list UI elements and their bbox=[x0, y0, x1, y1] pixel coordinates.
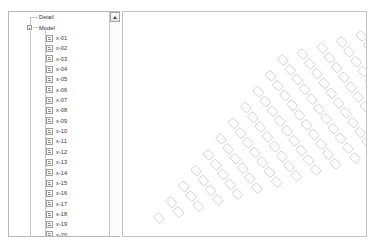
grid-tile bbox=[249, 147, 260, 158]
document-icon bbox=[46, 190, 53, 197]
tree-item-model[interactable]: Model bbox=[9, 22, 109, 32]
grid-tile bbox=[349, 152, 360, 163]
grid-tile bbox=[353, 91, 364, 102]
grid-tile bbox=[335, 133, 346, 144]
grid-tile bbox=[225, 179, 236, 190]
tree-item-x-18[interactable]: x-18 bbox=[9, 209, 109, 219]
grid-tile bbox=[285, 64, 296, 75]
tree-connector-line bbox=[30, 235, 31, 236]
document-icon bbox=[46, 107, 53, 114]
tree-item-x-05[interactable]: x-05 bbox=[9, 74, 109, 84]
grid-tile bbox=[345, 82, 356, 93]
grid-tile bbox=[205, 185, 216, 196]
tree-connector-line bbox=[30, 90, 31, 100]
tree-item-x-14[interactable]: x-14 bbox=[9, 167, 109, 177]
tree-vertical-scrollbar[interactable] bbox=[109, 12, 120, 236]
tree-connector-line bbox=[30, 48, 31, 58]
tree-item-detail[interactable]: Detail bbox=[9, 12, 109, 22]
canvas-pattern-graphic bbox=[123, 12, 366, 236]
grid-tile bbox=[223, 143, 234, 154]
grid-tile bbox=[230, 153, 241, 164]
grid-tile bbox=[287, 100, 298, 111]
grid-tile bbox=[317, 42, 328, 53]
document-icon bbox=[46, 211, 53, 218]
grid-tile bbox=[198, 175, 209, 186]
tree-item-x-10[interactable]: x-10 bbox=[9, 126, 109, 136]
grid-tile bbox=[244, 173, 255, 184]
tree-item-x-06[interactable]: x-06 bbox=[9, 84, 109, 94]
grid-tile bbox=[289, 135, 300, 146]
grid-tile bbox=[331, 62, 342, 73]
tree-item-x-15[interactable]: x-15 bbox=[9, 178, 109, 188]
tree-item-x-08[interactable]: x-08 bbox=[9, 105, 109, 115]
grid-tile bbox=[265, 70, 276, 81]
drawing-canvas-panel[interactable] bbox=[122, 11, 367, 237]
grid-tile bbox=[269, 141, 280, 152]
tree-connector-line bbox=[30, 28, 31, 38]
grid-tile bbox=[356, 30, 366, 41]
grid-tile bbox=[355, 127, 366, 138]
tree-item-x-03[interactable]: x-03 bbox=[9, 53, 109, 63]
grid-tile bbox=[210, 159, 221, 170]
tree-item-x-07[interactable]: x-07 bbox=[9, 95, 109, 105]
tree-item-x-19[interactable]: x-19 bbox=[9, 219, 109, 229]
grid-tile bbox=[311, 68, 322, 79]
grid-tile bbox=[310, 164, 321, 175]
document-icon bbox=[46, 117, 53, 124]
tree-connector-line bbox=[30, 224, 31, 234]
grid-tile bbox=[338, 72, 349, 83]
grid-tile bbox=[257, 157, 268, 168]
tree-item-x-16[interactable]: x-16 bbox=[9, 188, 109, 198]
tree-item-x-13[interactable]: x-13 bbox=[9, 157, 109, 167]
grid-tile bbox=[336, 36, 347, 47]
tree-connector-line bbox=[30, 59, 31, 69]
scrollbar-track[interactable] bbox=[110, 22, 120, 236]
grid-tile bbox=[294, 109, 305, 120]
grid-tile bbox=[299, 84, 310, 95]
grid-tile bbox=[324, 52, 335, 63]
grid-tile bbox=[272, 80, 283, 91]
model-tree-panel[interactable]: Detail Model x-01x-02x-03x-04x-05x-06x-0… bbox=[8, 11, 120, 237]
document-icon bbox=[46, 231, 53, 236]
grid-tile bbox=[237, 163, 248, 174]
grid-tile bbox=[340, 107, 351, 118]
tree-item-x-04[interactable]: x-04 bbox=[9, 64, 109, 74]
tree-connector-line bbox=[30, 173, 31, 183]
tree-scroll-area[interactable]: Detail Model x-01x-02x-03x-04x-05x-06x-0… bbox=[9, 12, 109, 236]
document-icon bbox=[46, 66, 53, 73]
tree-connector-line bbox=[30, 110, 31, 120]
tree-connector-line bbox=[30, 17, 38, 18]
document-icon bbox=[46, 159, 53, 166]
grid-tile bbox=[267, 106, 278, 117]
tree-connector-line bbox=[30, 121, 31, 131]
tree-connector-line bbox=[30, 204, 31, 214]
tree-item-x-11[interactable]: x-11 bbox=[9, 136, 109, 146]
tree-item-x-12[interactable]: x-12 bbox=[9, 146, 109, 156]
grid-tile bbox=[281, 125, 292, 136]
grid-tile bbox=[304, 58, 315, 69]
grid-tile bbox=[191, 165, 202, 176]
grid-tile bbox=[292, 74, 303, 85]
grid-tile bbox=[303, 155, 314, 166]
grid-tile bbox=[333, 97, 344, 108]
tree-connector-line bbox=[30, 214, 31, 224]
tree-connector-line bbox=[30, 162, 31, 172]
tree-item-x-02[interactable]: x-02 bbox=[9, 43, 109, 53]
grid-tile bbox=[323, 149, 334, 160]
triangle-up-icon[interactable] bbox=[110, 12, 120, 22]
grid-tile bbox=[203, 149, 214, 160]
tree-item-x-17[interactable]: x-17 bbox=[9, 198, 109, 208]
grid-tile bbox=[319, 78, 330, 89]
tree-item-x-09[interactable]: x-09 bbox=[9, 115, 109, 125]
grid-tile bbox=[166, 197, 177, 208]
tree-item-x-20[interactable]: x-20 bbox=[9, 229, 109, 236]
document-icon bbox=[46, 200, 53, 207]
grid-tile bbox=[328, 123, 339, 134]
tree-connector-line bbox=[45, 235, 46, 236]
application-window: Detail Model x-01x-02x-03x-04x-05x-06x-0… bbox=[0, 0, 375, 240]
grid-tile bbox=[260, 96, 271, 107]
tree-connector-line bbox=[30, 100, 31, 110]
grid-tile bbox=[365, 76, 366, 87]
tree-item-x-01[interactable]: x-01 bbox=[9, 33, 109, 43]
tree-connector-line bbox=[30, 131, 31, 141]
